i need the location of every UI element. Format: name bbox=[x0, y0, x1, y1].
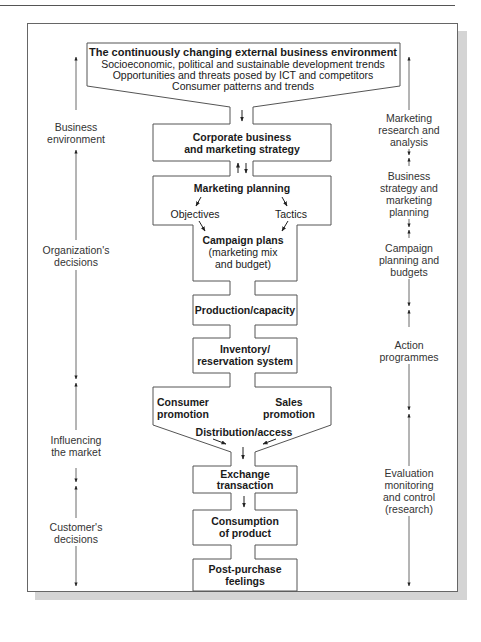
right-label-line: Action bbox=[380, 339, 439, 351]
environment-title: The continuously changing external busin… bbox=[89, 46, 397, 58]
right-label-line: planning and bbox=[379, 254, 439, 266]
right-label-line: monitoring bbox=[383, 479, 435, 491]
left-label-business-environment: Business environment bbox=[47, 120, 105, 146]
left-label-line: decisions bbox=[50, 533, 103, 545]
production-box bbox=[193, 295, 297, 338]
inventory-line-1: Inventory/ bbox=[220, 343, 270, 355]
right-label-line: budgets bbox=[379, 266, 439, 278]
right-label-evaluation: Evaluation monitoring and control (resea… bbox=[383, 466, 435, 516]
right-label-line: Business bbox=[380, 170, 438, 182]
right-label-line: programmes bbox=[380, 351, 439, 363]
left-label-organizations-decisions: Organization's decisions bbox=[43, 243, 110, 269]
corporate-line-1: Corporate business bbox=[193, 131, 292, 143]
left-label-line: environment bbox=[47, 133, 105, 145]
right-label-line: (research) bbox=[383, 503, 435, 515]
left-label-customers-decisions: Customer's decisions bbox=[50, 520, 103, 546]
right-label-line: Campaign bbox=[379, 242, 439, 254]
campaign-sub-line-1: (marketing mix bbox=[209, 246, 278, 258]
consumption-line-1: Consumption bbox=[211, 515, 279, 527]
sales-promotion-line-1: Sales bbox=[275, 396, 302, 408]
right-label-line: Evaluation bbox=[383, 467, 435, 479]
right-label-line: planning bbox=[380, 206, 438, 218]
left-label-line: the market bbox=[51, 446, 102, 458]
right-label-line: strategy and bbox=[380, 182, 438, 194]
consumption-line-2: of product bbox=[219, 527, 271, 539]
campaign-sub-line-2: and budget) bbox=[215, 258, 271, 270]
right-label-line: Marketing bbox=[378, 112, 439, 124]
tactics-label: Tactics bbox=[275, 208, 307, 220]
right-label-line: research and bbox=[378, 124, 439, 136]
marketing-planning-label: Marketing planning bbox=[194, 182, 290, 194]
left-label-line: Organization's bbox=[43, 244, 110, 256]
left-label-influencing-market: Influencing the market bbox=[51, 433, 102, 459]
consumer-promotion-line-2: promotion bbox=[157, 408, 209, 420]
corporate-line-2: and marketing strategy bbox=[184, 143, 300, 155]
left-label-line: decisions bbox=[43, 256, 110, 268]
right-label-action-programmes: Action programmes bbox=[380, 338, 439, 364]
inventory-line-2: reservation system bbox=[197, 355, 293, 367]
distribution-label: Distribution/access bbox=[196, 426, 293, 438]
left-label-line: Customer's bbox=[50, 521, 103, 533]
right-label-line: and control bbox=[383, 491, 435, 503]
right-label-line: marketing bbox=[380, 194, 438, 206]
objectives-label: Objectives bbox=[170, 208, 219, 220]
left-label-line: Business bbox=[47, 121, 105, 133]
post-purchase-line-2: feelings bbox=[225, 575, 265, 587]
consumer-promotion-line-1: Consumer bbox=[157, 396, 209, 408]
right-label-marketing-research: Marketing research and analysis bbox=[378, 111, 439, 149]
left-label-line: Influencing bbox=[51, 434, 102, 446]
exchange-line-2: transaction bbox=[217, 479, 274, 491]
sales-promotion-line-2: promotion bbox=[263, 408, 315, 420]
post-purchase-line-1: Post-purchase bbox=[209, 563, 282, 575]
production-label: Production/capacity bbox=[195, 304, 295, 316]
right-label-business-strategy: Business strategy and marketing planning bbox=[380, 169, 438, 219]
environment-line-3: Consumer patterns and trends bbox=[172, 80, 314, 92]
right-label-line: analysis bbox=[378, 136, 439, 148]
right-label-campaign-planning: Campaign planning and budgets bbox=[379, 241, 439, 279]
campaign-plans-label: Campaign plans bbox=[202, 234, 283, 246]
